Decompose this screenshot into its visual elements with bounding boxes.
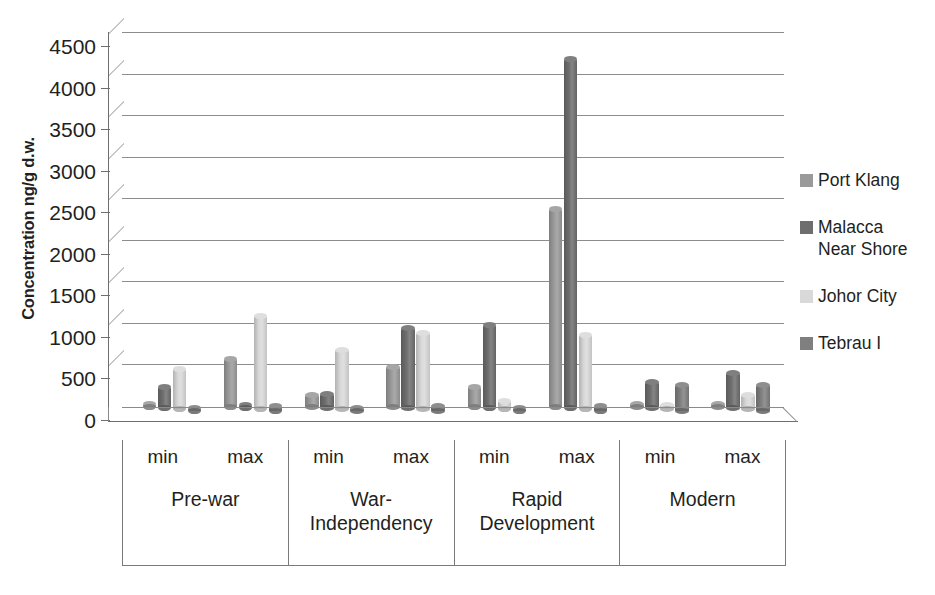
category-group: minmaxPre-war — [123, 440, 289, 565]
y-tick-label: 2000 — [10, 243, 96, 264]
bar — [254, 316, 268, 410]
bar — [416, 333, 430, 409]
y-tick-label: 4500 — [10, 36, 96, 57]
floor-right-edge — [783, 407, 798, 422]
bar — [305, 395, 319, 407]
legend-swatch-icon — [800, 221, 813, 234]
bar-cap — [335, 347, 349, 353]
legend-item: MalaccaNear Shore — [800, 217, 935, 260]
legend-swatch-icon — [800, 337, 813, 350]
bar — [158, 387, 172, 408]
sub-label-max: max — [227, 446, 263, 468]
sub-label-max: max — [559, 446, 595, 468]
bar-cap — [386, 364, 400, 370]
y-tick-label: 500 — [10, 368, 96, 389]
sub-label-min: min — [645, 446, 676, 468]
legend-swatch-icon — [800, 174, 813, 187]
y-tick-label: 1000 — [10, 326, 96, 347]
bar-cap — [468, 384, 482, 390]
minmax-labels: minmax — [123, 446, 288, 468]
plot-area — [108, 18, 784, 434]
legend-item: Johor City — [800, 286, 935, 307]
bar-cap — [741, 392, 755, 398]
y-tick-label: 2500 — [10, 202, 96, 223]
category-axis: minmaxPre-warminmaxWar-Independencyminma… — [122, 440, 786, 566]
minmax-labels: minmax — [620, 446, 785, 468]
sub-label-max: max — [725, 446, 761, 468]
bar-cap — [498, 398, 512, 404]
bar-cap — [320, 391, 334, 397]
sub-label-min: min — [148, 446, 179, 468]
bar-cap — [305, 392, 319, 398]
y-tick-label: 0 — [10, 410, 96, 431]
legend-label: Johor City — [818, 286, 897, 307]
group-label: War-Independency — [289, 488, 454, 536]
bar — [549, 209, 563, 407]
minmax-labels: minmax — [455, 446, 620, 468]
bar-cap — [675, 382, 689, 388]
bar-cap — [224, 356, 238, 362]
bar-cap — [254, 313, 268, 319]
bar — [564, 59, 578, 408]
floor-top-edge — [122, 407, 784, 408]
legend-item: Tebrau I — [800, 333, 935, 354]
bar-cap — [416, 330, 430, 336]
legend-label: Port Klang — [818, 170, 900, 191]
sub-label-min: min — [313, 446, 344, 468]
bar-cap — [564, 56, 578, 62]
sub-label-min: min — [479, 446, 510, 468]
bar — [224, 359, 238, 407]
minmax-labels: minmax — [289, 446, 454, 468]
sub-label-max: max — [393, 446, 429, 468]
y-tick-label: 1500 — [10, 285, 96, 306]
bar-cap — [549, 206, 563, 212]
bar — [579, 335, 593, 410]
bar — [726, 373, 740, 408]
bar — [468, 387, 482, 407]
bar — [645, 382, 659, 408]
bar — [386, 367, 400, 407]
y-axis-tick-labels: 050010001500200025003000350040004500 — [0, 0, 96, 595]
bar-cap — [756, 382, 770, 388]
y-tick-label: 4000 — [10, 77, 96, 98]
floor-front-edge — [108, 421, 798, 422]
bar-cap — [483, 322, 497, 328]
bar-cap — [158, 384, 172, 390]
plot-floor — [108, 407, 784, 434]
bar-cap — [401, 325, 415, 331]
group-label: Pre-war — [123, 488, 288, 512]
bar — [401, 328, 415, 408]
legend-swatch-icon — [800, 290, 813, 303]
group-label: RapidDevelopment — [455, 488, 620, 536]
bars-layer — [108, 18, 784, 434]
bar-chart: Concentration ng/g d.w. 0500100015002000… — [0, 0, 935, 595]
y-tick-label: 3500 — [10, 119, 96, 140]
y-tick-label: 3000 — [10, 160, 96, 181]
bar-cap — [173, 366, 187, 372]
bar — [483, 325, 497, 408]
category-group: minmaxWar-Independency — [289, 440, 455, 565]
group-label: Modern — [620, 488, 785, 512]
legend-label: MalaccaNear Shore — [818, 217, 908, 260]
bar-cap — [579, 332, 593, 338]
legend-item: Port Klang — [800, 170, 935, 191]
bar — [335, 350, 349, 410]
bar-cap — [726, 370, 740, 376]
category-group: minmaxRapidDevelopment — [455, 440, 621, 565]
chart-legend: Port KlangMalaccaNear ShoreJohor CityTeb… — [800, 170, 935, 381]
floor-left-edge — [108, 407, 123, 422]
category-group: minmaxModern — [620, 440, 785, 565]
bar — [173, 369, 187, 410]
bar-cap — [645, 379, 659, 385]
legend-label: Tebrau I — [818, 333, 881, 354]
